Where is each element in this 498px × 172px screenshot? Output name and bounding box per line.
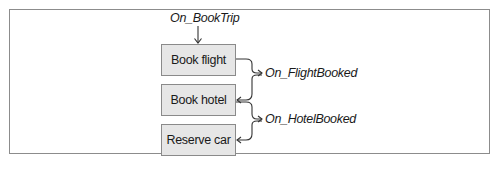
step-book-flight: Book flight xyxy=(161,44,236,76)
diagram-frame xyxy=(9,9,490,154)
event-hotel-booked: On_HotelBooked xyxy=(265,112,356,126)
event-flight-booked: On_FlightBooked xyxy=(265,66,357,80)
step-label: Reserve car xyxy=(166,133,230,147)
trigger-event-label: On_BookTrip xyxy=(170,11,239,25)
step-book-hotel: Book hotel xyxy=(161,84,236,116)
step-label: Book hotel xyxy=(170,93,226,107)
step-label: Book flight xyxy=(171,53,226,67)
step-reserve-car: Reserve car xyxy=(161,124,236,156)
